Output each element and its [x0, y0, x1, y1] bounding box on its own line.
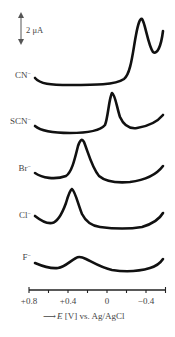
tick-label: 0 [105, 296, 110, 306]
right-arrow-icon: ⟶ [43, 311, 56, 321]
curve-cn [35, 19, 163, 85]
curves [35, 19, 163, 271]
label-cn: CN− [15, 70, 32, 81]
label-br: Br− [19, 163, 32, 174]
curve-scn [35, 93, 163, 133]
label-cl: Cl− [19, 210, 32, 221]
curve-cl [35, 189, 163, 229]
curve-f [35, 257, 163, 271]
tick-label: +0.8 [21, 296, 38, 306]
scale-bar-label: 2 μA [26, 25, 44, 35]
x-axis-label: ⟶E [V] vs. Ag/AgCl [43, 311, 125, 321]
scale-bar: 2 μA [21, 15, 44, 42]
x-axis: +0.8 +0.4 0 −0.4 ⟶E [V] vs. Ag/AgCl [21, 287, 166, 321]
species-labels: CN− SCN− Br− Cl− F− [10, 70, 32, 263]
label-f: F− [23, 252, 32, 263]
tick-label: −0.4 [138, 296, 155, 306]
tick-label: +0.4 [60, 296, 77, 306]
label-scn: SCN− [10, 116, 32, 127]
voltammogram-chart: 2 μA CN− SCN− Br− Cl− F− +0.8 +0.4 0 −0.… [0, 0, 175, 337]
curve-br [35, 140, 163, 182]
